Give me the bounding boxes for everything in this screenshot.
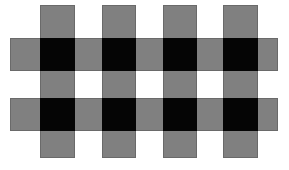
black-intersection-square: [223, 98, 258, 131]
vertical-column: [102, 5, 136, 158]
black-intersection-square: [40, 38, 75, 71]
vertical-column: [40, 5, 75, 158]
vertical-column: [163, 5, 197, 158]
vertical-column: [223, 5, 258, 158]
pattern-figure: [0, 0, 289, 170]
black-intersection-square: [163, 98, 197, 131]
black-intersection-square: [102, 38, 136, 71]
black-intersection-square: [40, 98, 75, 131]
black-intersection-square: [102, 98, 136, 131]
black-intersection-square: [163, 38, 197, 71]
black-intersection-square: [223, 38, 258, 71]
